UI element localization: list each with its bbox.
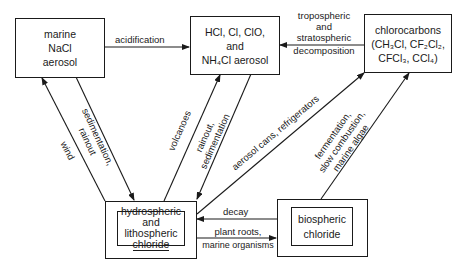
- node-bio-line-1: biospheric: [298, 212, 346, 227]
- node-hydrospheric-chloride: hydrospheric and lithospheric chloride: [105, 201, 197, 259]
- node-marine-line-1: marine: [44, 27, 76, 41]
- label-decomposition-line-4: decomposition: [285, 45, 363, 56]
- label-plant-roots-line-1: plant roots,: [199, 226, 277, 237]
- node-chlorocarbons: chlorocarbons (CH₃Cl, CF₂Cl₂, CFCl₃, CCl…: [364, 14, 452, 73]
- node-marine-line-3: aerosol: [43, 55, 77, 69]
- node-hcl-line-3: NH₄Cl aerosol: [202, 53, 269, 67]
- node-chlorocarbons-line-3: CFCl₃, CCl₄): [378, 51, 437, 65]
- label-decomposition-line-2: and: [285, 21, 363, 32]
- label-decomposition-line-3: stratospheric: [285, 32, 363, 43]
- node-chlorocarbons-line-2: (CH₃Cl, CF₂Cl₂,: [371, 37, 445, 51]
- label-decomposition-line-1: tropospheric: [285, 10, 363, 21]
- node-hydrospheric-inner: hydrospheric and lithospheric chloride: [117, 211, 185, 246]
- node-bio-line-2: chloride: [304, 227, 341, 242]
- node-biospheric-inner: biospheric chloride: [291, 207, 353, 246]
- node-chlorocarbons-line-1: chlorocarbons: [375, 23, 441, 37]
- node-marine-line-2: NaCl: [48, 41, 71, 55]
- label-decay: decay: [223, 206, 248, 217]
- node-biospheric-chloride: biospheric chloride: [277, 199, 368, 257]
- node-hcl-line-1: HCl, Cl, ClO,: [205, 25, 265, 39]
- label-decomposition: tropospheric and stratospheric decomposi…: [285, 10, 363, 56]
- label-acidification: acidification: [115, 34, 165, 45]
- node-hydro-line-4: chloride: [133, 239, 170, 251]
- node-marine-nacl-aerosol: marine NaCl aerosol: [15, 18, 105, 78]
- node-hcl-aerosol: HCl, Cl, ClO, and NH₄Cl aerosol: [190, 16, 280, 75]
- label-plant-roots: plant roots, marine organisms: [199, 226, 277, 251]
- node-hcl-line-2: and: [226, 39, 244, 53]
- label-plant-roots-line-2: marine organisms: [199, 240, 277, 251]
